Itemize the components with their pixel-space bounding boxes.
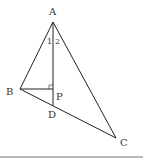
segment-ac bbox=[53, 22, 116, 138]
label-d: D bbox=[48, 109, 56, 120]
label-p: P bbox=[56, 91, 63, 102]
right-angle-mark bbox=[49, 85, 53, 89]
bottom-divider bbox=[0, 156, 143, 158]
label-c: C bbox=[120, 137, 128, 148]
label-b: B bbox=[6, 86, 13, 97]
angle-1-label: 1 bbox=[47, 37, 52, 46]
label-a: A bbox=[48, 6, 57, 17]
segment-ab bbox=[20, 22, 53, 89]
segment-bc bbox=[20, 89, 116, 138]
triangle-figure: A B P D C 1 2 bbox=[0, 0, 143, 160]
geometry-diagram: A B P D C 1 2 bbox=[0, 0, 143, 160]
angle-2-label: 2 bbox=[55, 37, 60, 46]
